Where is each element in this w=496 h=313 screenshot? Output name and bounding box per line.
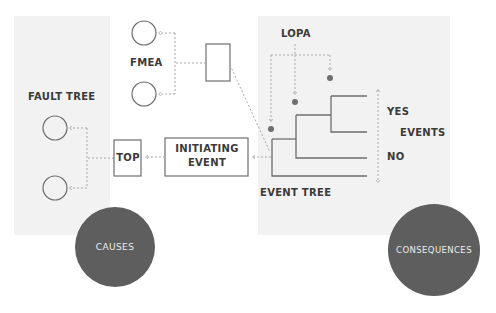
- lopa-dot-3: [327, 75, 333, 81]
- events-label: EVENTS: [400, 127, 446, 138]
- lopa-dot-1: [268, 126, 274, 132]
- causes-panel: [14, 16, 110, 235]
- causes-bubble-label: CAUSES: [96, 242, 135, 252]
- top-label: TOP: [116, 152, 140, 163]
- consequences-bubble-label: CONSEQUENCES: [396, 245, 472, 255]
- fault-tree-label: FAULT TREE: [28, 91, 95, 102]
- initiating-event-label-line2: EVENT: [188, 157, 226, 168]
- consequences-panel: [258, 16, 450, 235]
- lopa-label: LOPA: [281, 28, 311, 39]
- fmea-circle-bottom: [132, 82, 156, 106]
- fmea-box: [206, 44, 230, 81]
- lopa-dot-2: [292, 99, 298, 105]
- fmea-circle-top: [132, 21, 156, 45]
- no-label: NO: [387, 151, 404, 162]
- event-tree-label: EVENT TREE: [260, 187, 331, 198]
- fmea-label: FMEA: [130, 57, 163, 68]
- diagram-canvas: [0, 0, 496, 313]
- yes-label: YES: [387, 106, 409, 117]
- initiating-event-label-line1: INITIATING: [175, 143, 238, 154]
